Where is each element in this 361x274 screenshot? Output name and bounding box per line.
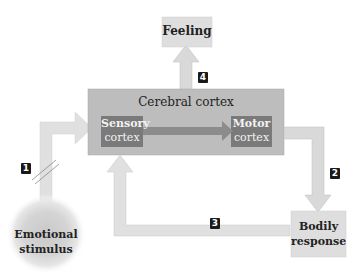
bodily-response-line2: response [291, 234, 346, 249]
motor-cortex-line1: Motor [231, 117, 272, 131]
sensory-cortex-line2: cortex [101, 131, 143, 145]
bodily-response-line1: Bodily [291, 219, 346, 234]
step-badge-2: 2 [330, 168, 340, 179]
emotional-stimulus-line1: Emotional [10, 227, 82, 242]
motor-cortex-line2: cortex [231, 131, 272, 145]
step-badge-3: 3 [210, 218, 220, 229]
step-badge-1: 1 [21, 163, 31, 174]
emotional-stimulus-line2: stimulus [10, 242, 82, 257]
feeling-label: Feeling [162, 24, 212, 39]
emotional-stimulus-label: Emotional stimulus [10, 227, 82, 257]
arrow-cortex-to-feeling [173, 45, 199, 90]
motor-cortex-label: Motor cortex [231, 117, 272, 145]
arrow-stimulus-to-sensory [32, 112, 92, 205]
step-badge-4: 4 [198, 72, 208, 83]
arrow-bodily-to-sensory [107, 155, 290, 236]
cerebral-cortex-label: Cerebral cortex [88, 95, 284, 109]
arrow-motor-to-bodily [284, 127, 331, 212]
sensory-cortex-line1: Sensory [101, 117, 143, 131]
bodily-response-label: Bodily response [291, 219, 346, 249]
sensory-cortex-label: Sensory cortex [101, 117, 143, 145]
